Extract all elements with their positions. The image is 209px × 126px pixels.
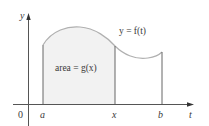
y-axis-arrow-icon <box>26 13 30 20</box>
t-axis-arrow-icon <box>187 102 194 106</box>
tick-label-a: a <box>40 109 45 120</box>
curve-label: y = f(t) <box>119 26 146 37</box>
area-label: area = g(x) <box>55 63 97 74</box>
tick-label-b: b <box>158 109 163 120</box>
tick-label-x: x <box>111 109 117 120</box>
area-function-diagram: y t 0 a x b y = f(t) area = g(x) <box>0 0 209 126</box>
y-axis-label: y <box>19 10 25 21</box>
t-axis-label: t <box>189 109 192 120</box>
origin-label: 0 <box>18 109 23 120</box>
